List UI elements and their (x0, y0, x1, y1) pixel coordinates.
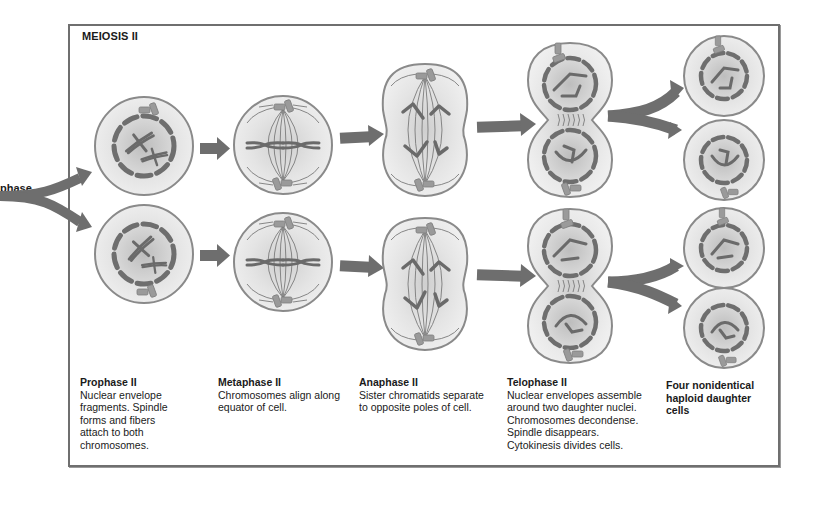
caption-heading: Prophase II (80, 376, 168, 389)
caption-body: Chromosomes align along equator of cell. (218, 389, 340, 414)
anaphase-ii-cell-top (383, 64, 467, 196)
daughter-cell-2 (684, 120, 764, 200)
caption-body: Nuclear envelopes assemble around two da… (507, 389, 642, 452)
daughter-cell-3 (684, 208, 764, 288)
caption-telophase-ii: Telophase II Nuclear envelopes assemble … (507, 376, 642, 452)
prophase-ii-cell-bottom (95, 205, 193, 303)
telophase-ii-cells-top (528, 43, 612, 197)
telophase-ii-cells-bottom (528, 209, 612, 363)
arrow-telophase-to-daughters-bottom (608, 258, 684, 314)
caption-body: Nuclear envelope fragments. Spindle form… (80, 389, 168, 452)
caption-heading: Anaphase II (359, 376, 484, 389)
incoming-split-arrow (0, 167, 92, 232)
caption-prophase-ii: Prophase II Nuclear envelope fragments. … (80, 376, 168, 452)
arrow-metaphase-to-anaphase (340, 125, 384, 277)
arrow-prophase-to-metaphase (200, 137, 230, 267)
arrow-telophase-to-daughters-top (608, 80, 684, 139)
caption-body: Four nonidentical haploid daughter cells (666, 379, 754, 417)
caption-metaphase-ii: Metaphase II Chromosomes align along equ… (218, 376, 340, 414)
caption-anaphase-ii: Anaphase II Sister chromatids separate t… (359, 376, 484, 414)
caption-daughter-cells: Four nonidentical haploid daughter cells (666, 379, 754, 417)
metaphase-ii-cell-bottom (234, 213, 332, 311)
arrow-anaphase-to-telophase (477, 113, 536, 287)
prophase-ii-cell-top (95, 97, 193, 195)
metaphase-ii-cell-top (234, 96, 332, 194)
daughter-cell-4 (684, 288, 764, 368)
caption-heading: Telophase II (507, 376, 642, 389)
anaphase-ii-cell-bottom (383, 218, 467, 350)
daughter-cell-1 (684, 36, 764, 116)
caption-body: Sister chromatids separate to opposite p… (359, 389, 484, 414)
caption-heading: Metaphase II (218, 376, 340, 389)
